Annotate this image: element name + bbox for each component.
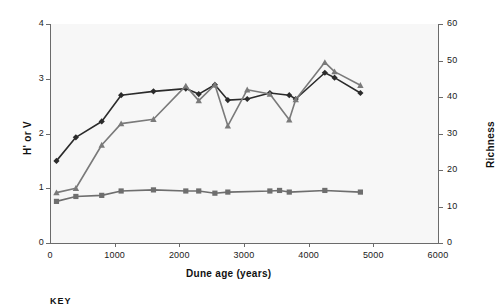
- evenness-square-series-marker: [225, 189, 230, 194]
- y-axis-right-tick-label: 10: [447, 201, 473, 211]
- evenness-square-series-marker: [277, 188, 282, 193]
- y-axis-right-tick-mark: [438, 134, 443, 135]
- y-axis-right-tick-mark: [438, 24, 443, 25]
- y-axis-right-tick-label: 50: [447, 55, 473, 65]
- evenness-square-series-marker: [212, 191, 217, 196]
- evenness-square-series-marker: [267, 188, 272, 193]
- x-axis-tick-label: 3000: [220, 250, 268, 260]
- y-axis-left-tick-mark: [46, 24, 50, 25]
- evenness-square-series-marker: [196, 188, 201, 193]
- x-axis-tick-label: 4000: [285, 250, 333, 260]
- y-axis-left-tick-label: 1: [20, 182, 44, 192]
- diversity-triangle-series-marker: [183, 83, 189, 89]
- y-axis-right-tick-mark: [438, 97, 443, 98]
- y-axis-right-tick-mark: [438, 61, 443, 62]
- x-axis-tick-label: 5000: [349, 250, 397, 260]
- evenness-square-series-marker: [358, 189, 363, 194]
- evenness-square-series-marker: [322, 188, 327, 193]
- evenness-square-series-marker: [54, 199, 59, 204]
- y-axis-left-title: H' or V: [22, 121, 33, 155]
- richness-diamond-series-marker: [244, 96, 250, 102]
- x-axis-tick-mark: [179, 243, 180, 247]
- x-axis-tick-mark: [373, 243, 374, 247]
- y-axis-left-tick-mark: [46, 188, 50, 189]
- evenness-square-series-marker: [183, 188, 188, 193]
- y-axis-right-tick-label: 0: [447, 237, 473, 247]
- richness-diamond-series: [53, 70, 363, 164]
- y-axis-right-tick-mark: [438, 243, 443, 244]
- evenness-square-series-marker: [119, 188, 124, 193]
- x-axis-tick-label: 2000: [155, 250, 203, 260]
- x-axis-tick-label: 0: [26, 250, 74, 260]
- y-axis-left-tick-mark: [46, 79, 50, 80]
- y-axis-right-tick-label: 40: [447, 91, 473, 101]
- y-axis-right-tick-label: 20: [447, 164, 473, 174]
- y-axis-left-tick-label: 0: [20, 237, 44, 247]
- diversity-triangle-series-marker: [357, 82, 363, 88]
- evenness-square-series-marker: [151, 187, 156, 192]
- y-axis-right-tick-label: 60: [447, 18, 473, 28]
- y-axis-right-tick-mark: [438, 207, 443, 208]
- diversity-triangle-series-marker: [322, 59, 328, 65]
- legend-key-title: KEY: [50, 296, 72, 306]
- x-axis-tick-label: 1000: [91, 250, 139, 260]
- x-axis-tick-label: 6000: [414, 250, 462, 260]
- x-axis-title: Dune age (years): [186, 268, 271, 279]
- y-axis-left-tick-label: 4: [20, 18, 44, 28]
- x-axis-tick-mark: [244, 243, 245, 247]
- diversity-triangle-series-marker: [225, 123, 231, 129]
- y-axis-left-tick-label: 3: [20, 73, 44, 83]
- data-series-layer: [0, 0, 501, 307]
- evenness-square-series-marker: [73, 194, 78, 199]
- richness-diamond-series-marker: [150, 88, 156, 94]
- y-axis-left-tick-mark: [46, 243, 50, 244]
- evenness-square-series-marker: [287, 189, 292, 194]
- y-axis-right-tick-label: 30: [447, 128, 473, 138]
- x-axis-tick-mark: [309, 243, 310, 247]
- y-axis-left-tick-mark: [46, 134, 50, 135]
- evenness-square-series: [54, 187, 363, 204]
- y-axis-right-title: Richness: [485, 121, 496, 168]
- chart-figure: 01234 0102030405060 01000200030004000500…: [0, 0, 501, 307]
- x-axis-tick-mark: [115, 243, 116, 247]
- y-axis-right-tick-mark: [438, 170, 443, 171]
- y-axis-left-line: [50, 24, 51, 244]
- evenness-square-series-marker: [99, 193, 104, 198]
